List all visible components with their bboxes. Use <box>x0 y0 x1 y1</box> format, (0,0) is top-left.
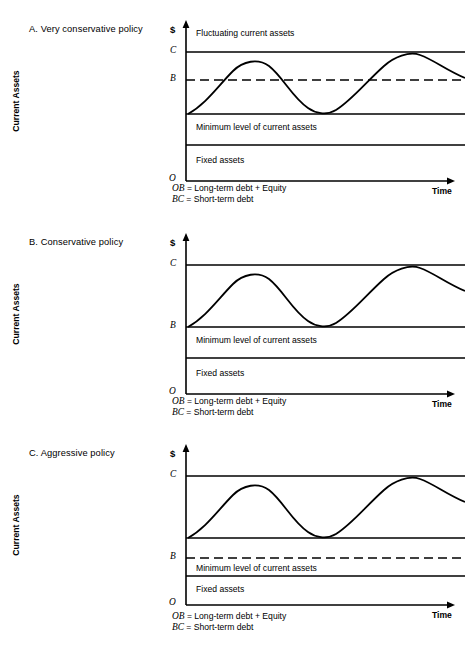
caption-symbol-ob: OB <box>172 611 185 621</box>
caption-symbol-ob: OB <box>172 183 185 193</box>
caption-ob: OB = Long-term debt + Equity <box>172 611 286 621</box>
caption-text-bc: = Short-term debt <box>184 407 254 417</box>
caption-symbol-ob: OB <box>172 396 185 406</box>
caption-bc: BC = Short-term debt <box>172 407 253 417</box>
caption-ob: OB = Long-term debt + Equity <box>172 183 286 193</box>
caption-text-ob: = Long-term debt + Equity <box>185 611 287 621</box>
panel-aggressive-policy: C. Aggressive policy Current Assets $ C … <box>0 424 465 639</box>
caption-symbol-bc: BC <box>172 407 184 417</box>
chart-graphic <box>0 424 465 639</box>
caption-bc: BC = Short-term debt <box>172 622 253 632</box>
caption-symbol-bc: BC <box>172 622 184 632</box>
caption-text-ob: = Long-term debt + Equity <box>185 183 287 193</box>
caption-bc: BC = Short-term debt <box>172 194 253 204</box>
panel-conservative-policy: B. Conservative policy Current Assets $ … <box>0 213 465 428</box>
caption-ob: OB = Long-term debt + Equity <box>172 396 286 406</box>
caption-text-ob: = Long-term debt + Equity <box>185 396 287 406</box>
panel-very-conservative-policy: A. Very conservative policy Current Asse… <box>0 0 465 215</box>
caption-text-bc: = Short-term debt <box>184 622 254 632</box>
caption-symbol-bc: BC <box>172 194 184 204</box>
caption-text-bc: = Short-term debt <box>184 194 254 204</box>
